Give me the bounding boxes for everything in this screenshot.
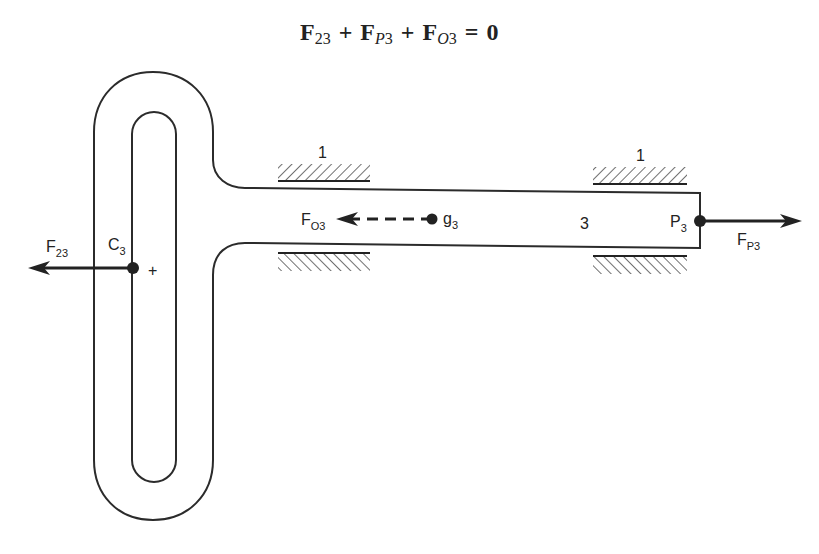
eq-sub-23: 23 bbox=[315, 30, 331, 47]
eq-term-f23: F bbox=[300, 19, 315, 45]
plus-marker: + bbox=[148, 262, 157, 279]
equilibrium-equation: F23+FP3+FO3=0 bbox=[300, 19, 498, 47]
eq-term-fo3: F bbox=[423, 19, 438, 45]
svg-text:F23+FP3+FO3=0: F23+FP3+FO3=0 bbox=[300, 19, 498, 47]
eq-sub-o3-num: 3 bbox=[449, 30, 457, 47]
slot-outline bbox=[132, 112, 176, 482]
eq-plus-1: + bbox=[339, 19, 353, 45]
label-fo3: FO3 bbox=[301, 211, 325, 232]
label-c3: C3 bbox=[108, 236, 126, 257]
eq-sub-o: O bbox=[437, 30, 449, 47]
label-f23: F23 bbox=[46, 238, 68, 259]
eq-term-fp3: F bbox=[360, 19, 375, 45]
label-fp3: FP3 bbox=[737, 231, 760, 252]
label-g3: g3 bbox=[443, 210, 458, 231]
ground-top-left bbox=[278, 164, 370, 181]
ground-label-left: 1 bbox=[318, 144, 327, 161]
ground-bottom-left bbox=[278, 253, 370, 271]
link-3-outline bbox=[94, 72, 700, 520]
eq-plus-2: + bbox=[401, 19, 415, 45]
ground-top-right bbox=[593, 167, 687, 184]
eq-equals: = bbox=[465, 19, 479, 45]
label-p3: P3 bbox=[670, 213, 687, 234]
free-body-diagram: F23+FP3+FO3=0 1 1 3 F23 C3 + bbox=[0, 0, 819, 554]
point-p3 bbox=[694, 215, 706, 227]
eq-sub-p: P bbox=[374, 30, 385, 47]
force-fp3 bbox=[694, 214, 802, 228]
eq-sub-p3-num: 3 bbox=[385, 30, 393, 47]
point-c3 bbox=[127, 262, 139, 274]
point-g3 bbox=[427, 214, 438, 225]
force-f23 bbox=[28, 261, 139, 275]
force-fo3 bbox=[336, 212, 438, 226]
link-number-label: 3 bbox=[580, 215, 589, 232]
ground-bottom-right bbox=[593, 256, 687, 274]
eq-rhs-zero: 0 bbox=[486, 19, 498, 45]
ground-label-right: 1 bbox=[636, 147, 645, 164]
